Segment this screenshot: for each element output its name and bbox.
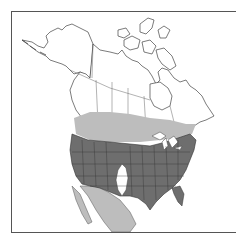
range-map (0, 0, 236, 236)
alaska-outline (22, 24, 93, 80)
florida (172, 186, 184, 206)
